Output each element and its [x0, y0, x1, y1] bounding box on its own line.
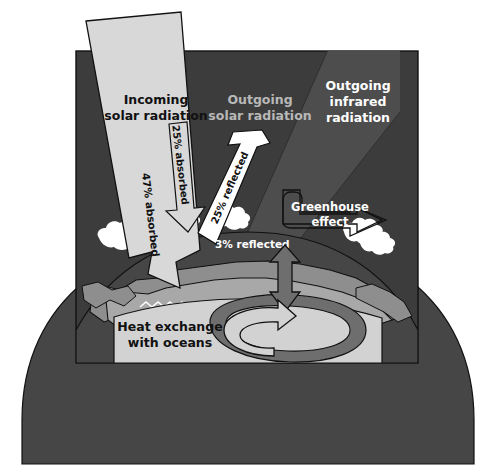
energy-budget-diagram: 47% absorbed 25% absorbed 25% reflected … — [0, 0, 497, 475]
label-outgoing-infrared-line2: infrared — [330, 94, 387, 109]
label-greenhouse-line1: Greenhouse — [291, 200, 369, 214]
label-3-reflected: 3% reflected — [215, 238, 290, 250]
label-outgoing-solar-line1: Outgoing — [227, 92, 292, 107]
label-incoming-solar-line1: Incoming — [124, 92, 189, 107]
label-outgoing-infrared-line1: Outgoing — [325, 78, 390, 93]
label-incoming-solar-line2: solar radiation — [104, 108, 207, 123]
label-heat-exchange-line2: with oceans — [128, 335, 212, 350]
label-heat-exchange-line1: Heat exchange — [117, 319, 222, 334]
label-outgoing-infrared-line3: radiation — [326, 110, 390, 125]
label-3-reflected-group: 3% reflected — [215, 238, 290, 250]
diagram-canvas: 47% absorbed 25% absorbed 25% reflected … — [0, 0, 497, 475]
label-outgoing-solar-line2: solar radiation — [208, 108, 311, 123]
label-greenhouse-line2: effect — [311, 215, 349, 229]
